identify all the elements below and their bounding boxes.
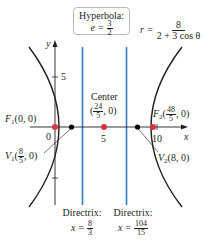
- center-label: Center: [91, 92, 118, 102]
- focus-2-dot: [150, 124, 156, 130]
- vertex-2-dot: [135, 124, 140, 129]
- x-tick-label-10: 10: [152, 134, 162, 144]
- eccentricity-fraction: 3 2: [107, 20, 113, 37]
- eccentricity: e = 3 2: [74, 20, 129, 37]
- vertex-2-label: V2(8, 0): [158, 153, 189, 165]
- polar-equation: r = 8 2 + 3 cos θ: [140, 20, 201, 41]
- x-axis-label: x: [184, 132, 188, 142]
- center-coord: (245, 0): [90, 103, 117, 120]
- hyperbola-label-box: Hyperbola: e = 3 2: [73, 7, 130, 35]
- y-axis-arrow-icon: [53, 40, 58, 47]
- x-tick-label-0: 0: [46, 132, 51, 142]
- y-tick-label-5: 5: [61, 72, 66, 82]
- center-dot: [101, 124, 107, 130]
- directrix-2-label: Directrix: x = 10415: [110, 208, 156, 237]
- vertex-1-label: V1(85, 0): [5, 148, 37, 165]
- vertex-1-dot: [69, 124, 74, 129]
- x-axis-arrow-icon: [181, 125, 188, 130]
- x-tick-label-5: 5: [101, 134, 106, 144]
- focus-2-label: F2(485, 0): [153, 106, 189, 123]
- focus-1-label: F1(0, 0): [5, 114, 36, 126]
- directrix-1-label: Directrix: x = 83: [59, 208, 105, 237]
- focus-1-dot: [52, 124, 58, 130]
- y-axis-label: y: [46, 39, 50, 49]
- equation-fraction: 8 2 + 3 cos θ: [156, 20, 202, 41]
